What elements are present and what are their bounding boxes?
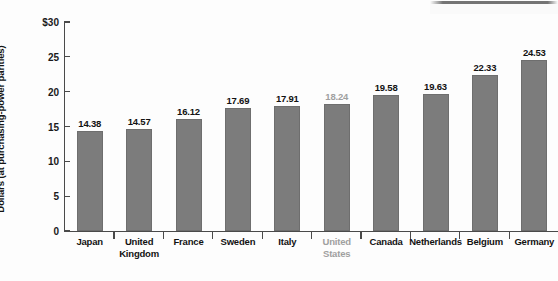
- bar: 14.57: [126, 129, 152, 231]
- bar-value-label: 17.69: [227, 95, 250, 106]
- x-axis-category-label: States: [323, 248, 350, 259]
- x-axis-tick: [212, 232, 213, 239]
- x-axis-category-label: Germany: [514, 236, 554, 247]
- bar: 14.38: [77, 131, 103, 231]
- x-axis-category-label: Kingdom: [119, 248, 159, 259]
- bar-chart-figure: Dollars (at purchasing-power parities) $…: [0, 0, 558, 281]
- x-axis-category-label: Japan: [76, 236, 102, 247]
- x-axis-tick: [509, 232, 510, 239]
- scan-artifact-band-lower: [430, 4, 558, 14]
- bar: 24.53: [521, 60, 547, 231]
- x-axis-tick: [360, 232, 361, 239]
- y-axis-tick: [64, 126, 70, 127]
- y-axis-tick: [64, 91, 70, 92]
- bar-value-label: 14.57: [128, 116, 151, 127]
- y-axis-tick-label: 20: [48, 86, 59, 97]
- y-axis-tick: [64, 161, 70, 162]
- bar: 17.91: [274, 106, 300, 231]
- y-axis-tick-label: 0: [53, 226, 59, 237]
- bar-value-label: 19.63: [424, 81, 447, 92]
- bar: 19.58: [373, 95, 399, 231]
- x-axis-category-label: Canada: [370, 236, 403, 247]
- bar: 17.69: [225, 108, 251, 231]
- y-axis-tick: [64, 56, 70, 57]
- y-axis-tick-label: 25: [48, 51, 59, 62]
- bar: 19.63: [423, 94, 449, 231]
- bar: 16.12: [176, 119, 202, 231]
- y-axis-tick-label: $30: [42, 17, 59, 28]
- y-axis-tick-label: 5: [53, 191, 59, 202]
- bar-value-label: 19.58: [375, 82, 398, 93]
- bar-value-label: 17.91: [276, 93, 299, 104]
- x-axis-category-label: United: [323, 236, 351, 247]
- y-axis-tick: [64, 21, 70, 22]
- bar-value-label: 22.33: [474, 62, 497, 73]
- x-axis-tick: [311, 232, 312, 239]
- y-axis-title: Dollars (at purchasing-power parities): [0, 24, 8, 234]
- y-axis-tick-label: 15: [48, 121, 59, 132]
- bar: 22.33: [472, 75, 498, 231]
- bar-value-label: 14.38: [78, 118, 101, 129]
- x-axis-category-label: Sweden: [221, 236, 256, 247]
- x-axis-category-label: Belgium: [467, 236, 503, 247]
- x-axis-category-label: Italy: [278, 236, 296, 247]
- x-axis-tick: [262, 232, 263, 239]
- x-axis-tick: [163, 232, 164, 239]
- x-axis-category-label: Netherlands: [409, 236, 462, 247]
- y-axis-tick-label: 10: [48, 156, 59, 167]
- bar-value-label: 16.12: [177, 106, 200, 117]
- bar: 18.24: [324, 104, 350, 231]
- x-axis-category-label: France: [174, 236, 204, 247]
- bar-value-label: 18.24: [325, 91, 348, 102]
- bar-value-label: 24.53: [523, 47, 546, 58]
- x-axis-tick: [113, 232, 114, 239]
- y-axis-tick: [64, 196, 70, 197]
- y-axis-tick: [64, 230, 70, 231]
- x-axis-category-label: United: [125, 236, 153, 247]
